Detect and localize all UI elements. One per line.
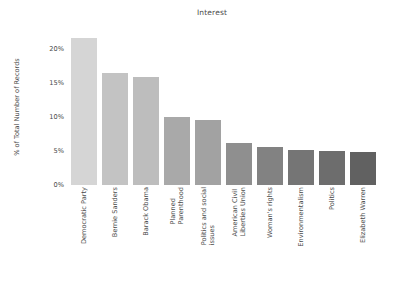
bar-series bbox=[68, 25, 378, 185]
x-tick-label-line: Politics bbox=[327, 186, 335, 211]
bar[interactable] bbox=[195, 120, 221, 185]
y-tick-label: 0% bbox=[54, 181, 64, 189]
x-tick-label-line: Bernie Sanders bbox=[110, 186, 118, 238]
y-tick-label: 20% bbox=[49, 45, 64, 53]
bar[interactable] bbox=[350, 152, 376, 185]
y-tick-label: 15% bbox=[49, 79, 64, 87]
chart-title-text: Interest bbox=[197, 8, 227, 17]
x-tick-label: Woman's rights bbox=[257, 186, 283, 280]
bar[interactable] bbox=[71, 38, 97, 185]
x-tick-label-line: Liberties Union bbox=[239, 186, 247, 238]
x-tick-label: Environmentalism bbox=[288, 186, 314, 280]
x-tick-label: PlannedParenthood bbox=[164, 186, 190, 280]
x-tick-label: Elizabeth Warren bbox=[350, 186, 376, 280]
x-tick-label: American CivilLiberties Union bbox=[226, 186, 252, 280]
x-tick-label-line: issues bbox=[208, 224, 216, 246]
bar[interactable] bbox=[319, 151, 345, 185]
x-tick-label: Politics and socialissues bbox=[195, 186, 221, 280]
bar[interactable] bbox=[133, 77, 159, 185]
y-tick-label: 10% bbox=[49, 113, 64, 121]
x-tick-label: Democratic Party bbox=[71, 186, 97, 280]
x-tick-label: Bernie Sanders bbox=[102, 186, 128, 280]
x-tick-label: Politics bbox=[319, 186, 345, 280]
bar[interactable] bbox=[102, 73, 128, 185]
bar[interactable] bbox=[226, 143, 252, 185]
chart-title: Interest bbox=[0, 8, 396, 17]
x-tick-label-line: American Civil bbox=[230, 188, 238, 237]
y-axis-label: % of Total Number of Records bbox=[13, 42, 21, 172]
y-tick-label: 5% bbox=[54, 147, 64, 155]
bar[interactable] bbox=[288, 150, 314, 185]
x-tick-label-line: Democratic Party bbox=[79, 186, 87, 245]
x-tick-label-line: Elizabeth Warren bbox=[358, 186, 366, 244]
x-tick-label-line: Barack Obama bbox=[141, 186, 149, 237]
x-tick-label-line: Planned bbox=[168, 197, 176, 225]
x-tick-label-line: Woman's rights bbox=[265, 186, 273, 239]
x-tick-label-line: Environmentalism bbox=[296, 186, 304, 248]
x-tick-label: Barack Obama bbox=[133, 186, 159, 280]
bar-chart-figure: Interest % of Total Number of Records 0%… bbox=[0, 0, 396, 283]
x-tick-label-line: Parenthood bbox=[177, 186, 185, 226]
bar[interactable] bbox=[257, 147, 283, 185]
bar[interactable] bbox=[164, 117, 190, 185]
x-axis-tick-labels: Democratic PartyBernie SandersBarack Oba… bbox=[68, 186, 378, 282]
plot-area: 0%5%10%15%20% bbox=[68, 25, 378, 185]
x-tick-label-line: Politics and social bbox=[199, 186, 207, 246]
